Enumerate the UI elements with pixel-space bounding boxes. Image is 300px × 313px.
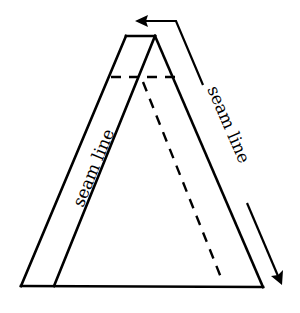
arrow-lower-segment — [247, 203, 278, 276]
triangle-right-edge — [155, 36, 263, 287]
seam-line-diagram: seam line seam line — [0, 0, 300, 313]
dashed-diagonal-line — [143, 82, 222, 280]
triangle-base — [21, 286, 263, 287]
arrow-seam-line-label: seam line — [203, 83, 254, 166]
arrow-upper-segment — [146, 21, 203, 85]
strip-outer-edge — [21, 36, 126, 286]
strip-seam-line-label: seam line — [68, 126, 118, 210]
